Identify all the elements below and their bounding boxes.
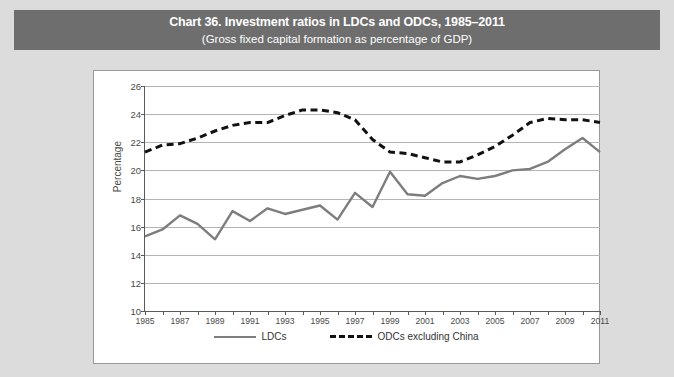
legend-label: ODCs excluding China: [377, 331, 478, 342]
x-tick-mark: [408, 311, 409, 315]
x-tick-label: 1995: [310, 316, 329, 326]
x-tick-mark: [303, 311, 304, 315]
y-tick-label: 18: [130, 193, 141, 204]
page-subtitle: (Gross fixed capital formation as percen…: [14, 31, 660, 47]
x-tick-mark: [338, 311, 339, 315]
x-tick-mark: [320, 311, 321, 315]
page-title: Chart 36. Investment ratios in LDCs and …: [14, 14, 660, 31]
x-tick-label: 1991: [240, 316, 259, 326]
x-tick-mark: [233, 311, 234, 315]
x-tick-label: 1987: [170, 316, 189, 326]
x-tick-label: 2007: [520, 316, 539, 326]
x-tick-label: 1985: [135, 316, 154, 326]
x-tick-label: 2009: [555, 316, 574, 326]
y-tick-label: 26: [130, 81, 141, 92]
plot-area: 101214161820222426 198519871989199119931…: [145, 86, 600, 311]
x-tick-label: 2011: [591, 316, 609, 326]
x-tick-mark: [268, 311, 269, 315]
legend-item-ldcs[interactable]: LDCs: [214, 331, 286, 342]
y-tick-label: 14: [130, 249, 141, 260]
x-tick-mark: [163, 311, 164, 315]
series-line-ldcs: [145, 138, 600, 239]
x-tick-label: 2005: [485, 316, 504, 326]
x-tick-mark: [495, 311, 496, 315]
y-tick-label: 12: [130, 277, 141, 288]
x-tick-mark: [145, 311, 146, 315]
x-tick-mark: [215, 311, 216, 315]
series-plot: [145, 86, 600, 311]
y-tick-label: 20: [130, 165, 141, 176]
x-tick-mark: [443, 311, 444, 315]
y-tick-label: 16: [130, 221, 141, 232]
chart-panel: Percentage 101214161820222426 1985198719…: [14, 56, 660, 364]
chart-title-band: Chart 36. Investment ratios in LDCs and …: [14, 10, 660, 50]
x-tick-mark: [355, 311, 356, 315]
legend-swatch-solid: [214, 336, 256, 338]
x-tick-mark: [250, 311, 251, 315]
x-tick-label: 1989: [205, 316, 224, 326]
y-tick-label: 10: [130, 306, 141, 317]
y-axis-title: Percentage: [112, 141, 126, 192]
x-tick-label: 1997: [345, 316, 364, 326]
x-tick-label: 1993: [275, 316, 294, 326]
x-tick-label: 1999: [380, 316, 399, 326]
x-tick-mark: [583, 311, 584, 315]
x-tick-mark: [600, 311, 601, 315]
x-tick-mark: [513, 311, 514, 315]
x-tick-mark: [285, 311, 286, 315]
x-tick-mark: [373, 311, 374, 315]
x-tick-mark: [198, 311, 199, 315]
x-tick-mark: [548, 311, 549, 315]
legend-swatch-dashed: [330, 335, 372, 338]
y-tick-label: 24: [130, 109, 141, 120]
x-tick-mark: [478, 311, 479, 315]
x-tick-mark: [425, 311, 426, 315]
legend-item-odcs-excluding-china[interactable]: ODCs excluding China: [330, 331, 478, 342]
x-tick-label: 2001: [415, 316, 434, 326]
y-tick-label: 22: [130, 137, 141, 148]
series-line-odcs-excluding-china: [145, 110, 600, 162]
x-tick-label: 2003: [450, 316, 469, 326]
x-tick-mark: [460, 311, 461, 315]
x-tick-mark: [530, 311, 531, 315]
x-tick-mark: [180, 311, 181, 315]
x-tick-mark: [565, 311, 566, 315]
chart-legend: LDCsODCs excluding China: [93, 331, 600, 342]
legend-label: LDCs: [261, 331, 286, 342]
x-tick-mark: [390, 311, 391, 315]
plot-frame: Percentage 101214161820222426 1985198719…: [93, 70, 600, 364]
